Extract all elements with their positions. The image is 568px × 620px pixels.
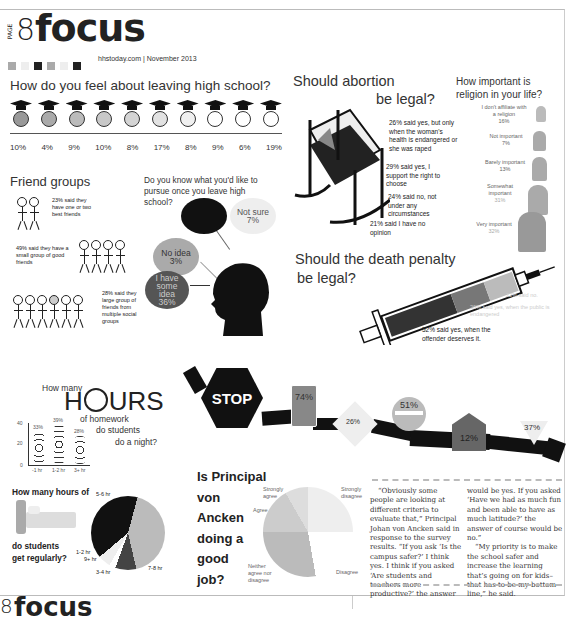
sleep-label-7-8: 7-8 hr bbox=[148, 565, 162, 572]
sleep-label-1-2: 1-2 hr bbox=[76, 549, 90, 556]
sleep-q1: How many hours of bbox=[12, 487, 89, 497]
sleep-q2: do students bbox=[12, 541, 59, 551]
quote-divider-bottom bbox=[372, 584, 562, 586]
quote-column-2: would be yes. If you asked ‘Have we had … bbox=[467, 487, 563, 600]
sleep-label-5-6: 5-6 hr bbox=[96, 491, 110, 498]
footer-page-number: 8 bbox=[0, 596, 13, 616]
road-sign-5-label: 37% bbox=[524, 423, 540, 432]
road-sign-3: 51% bbox=[392, 397, 426, 431]
road-sign-1: 74% bbox=[291, 385, 317, 427]
bed-icon bbox=[16, 500, 76, 534]
sleep-label-3-4: 3-4 hr bbox=[96, 569, 110, 576]
quote-divider-top bbox=[372, 479, 562, 481]
principal-label-agree: Agree bbox=[253, 507, 268, 514]
footer-section: focus bbox=[14, 594, 93, 620]
principal-label-neither: Neither agree nor disagree bbox=[248, 563, 280, 584]
sleep-label-9plus: 9+ hr bbox=[84, 556, 97, 563]
principal-label-disagree: Disagree bbox=[336, 569, 358, 576]
quote-column-1: “Obviously some people are looking at di… bbox=[370, 487, 462, 600]
stop-label: STOP bbox=[212, 390, 253, 407]
principal-label-strongly-disagree: Strongly disagree bbox=[341, 486, 367, 500]
road-sign-2-label: 26% bbox=[346, 418, 360, 425]
sleep-pie bbox=[91, 496, 165, 570]
sleep-q3: get regularly? bbox=[12, 553, 67, 563]
footer-rule bbox=[352, 596, 353, 609]
principal-label-strongly-agree: Strongly agree bbox=[263, 486, 293, 500]
